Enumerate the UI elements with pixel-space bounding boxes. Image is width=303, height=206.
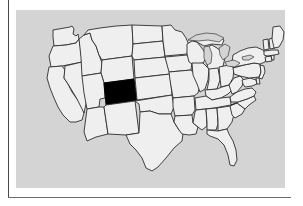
frame-left-rule	[8, 0, 9, 198]
state-me[interactable]	[272, 26, 284, 48]
state-fl[interactable]	[207, 129, 237, 166]
state-vt[interactable]	[263, 39, 269, 50]
state-mn[interactable]	[162, 25, 189, 56]
state-in[interactable]	[207, 68, 220, 90]
figure-caption	[16, 190, 285, 198]
us-locator-map[interactable]	[16, 10, 285, 188]
state-md[interactable]	[242, 78, 257, 87]
state-wy[interactable]	[101, 56, 134, 83]
state-al[interactable]	[206, 108, 218, 130]
state-nm[interactable]	[104, 101, 139, 135]
state-ar[interactable]	[173, 96, 195, 116]
state-ma[interactable]	[264, 50, 279, 56]
state-de[interactable]	[256, 78, 260, 84]
figure-root	[0, 0, 303, 206]
